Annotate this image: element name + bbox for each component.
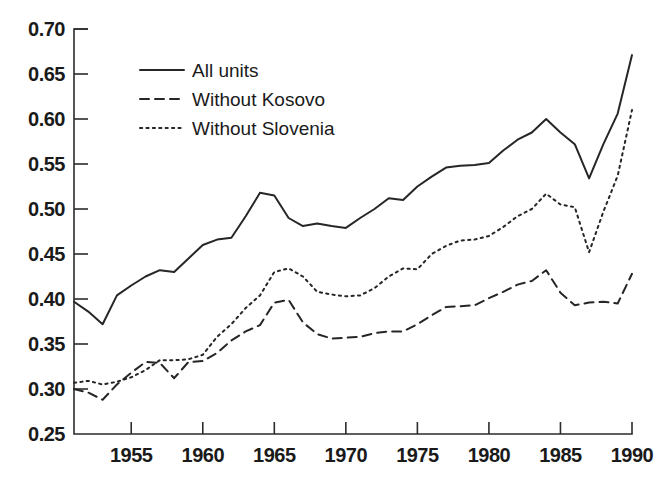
x-tick-label: 1985 (539, 444, 582, 466)
y-tick-label: 0.70 (28, 18, 65, 40)
chart-axes (74, 29, 632, 434)
y-tick-label: 0.60 (28, 108, 65, 130)
y-tick-label: 0.30 (28, 378, 65, 400)
y-tick-label: 0.55 (28, 153, 65, 175)
y-tick-label: 0.35 (28, 333, 65, 355)
y-tick-label: 0.45 (28, 243, 65, 265)
x-tick-label: 1970 (325, 444, 368, 466)
series-line-all-units (74, 55, 632, 324)
legend-label-without-slovenia: Without Slovenia (192, 118, 335, 139)
line-chart: 0.250.300.350.400.450.500.550.600.650.70… (0, 0, 663, 477)
y-axis-tick-marks (74, 29, 88, 389)
y-tick-label: 0.65 (28, 63, 65, 85)
x-tick-label: 1990 (611, 444, 654, 466)
legend-label-all-units: All units (192, 60, 259, 81)
x-axis-tick-marks (131, 422, 560, 434)
x-tick-label: 1965 (253, 444, 296, 466)
y-tick-label: 0.40 (28, 288, 65, 310)
series-line-without-kosovo (74, 270, 632, 400)
series-line-without-slovenia (74, 110, 632, 385)
x-tick-label: 1980 (468, 444, 511, 466)
y-axis-tick-labels: 0.250.300.350.400.450.500.550.600.650.70 (28, 18, 65, 445)
x-tick-label: 1955 (110, 444, 153, 466)
chart-legend: All unitsWithout KosovoWithout Slovenia (140, 60, 335, 139)
y-tick-label: 0.25 (28, 423, 65, 445)
chart-container: 0.250.300.350.400.450.500.550.600.650.70… (0, 0, 663, 477)
x-tick-label: 1960 (182, 444, 225, 466)
y-tick-label: 0.50 (28, 198, 65, 220)
legend-label-without-kosovo: Without Kosovo (192, 89, 325, 110)
x-axis-tick-labels: 19551960196519701975198019851990 (110, 444, 654, 466)
chart-series-group (74, 55, 632, 400)
axis-lines (74, 29, 632, 434)
x-tick-label: 1975 (396, 444, 439, 466)
